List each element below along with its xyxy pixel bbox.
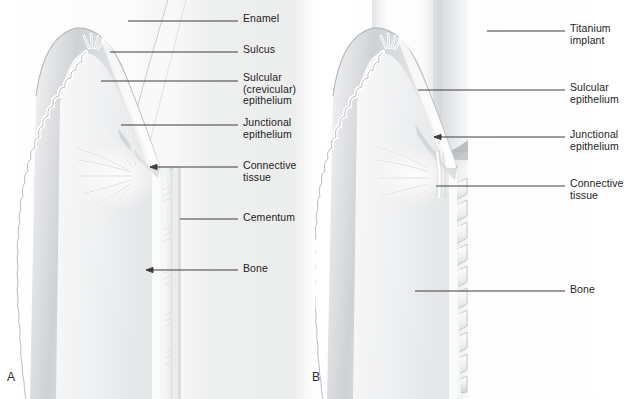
label-bone: Bone [570, 284, 595, 296]
panel-b-titanium-implant: Titanium implantSulcular epitheliumJunct… [315, 0, 630, 399]
label-sulcular-epithelium: Sulcular epithelium [570, 82, 619, 105]
label-connective-tissue: Connective tissue [570, 178, 624, 201]
label-enamel: Enamel [243, 13, 279, 25]
cementum-layer [171, 168, 180, 399]
figure-root: EnamelSulcusSulcular (crevicular) epithe… [0, 0, 630, 399]
label-titanium-implant: Titanium implant [570, 23, 630, 46]
panel-letter-b: B [312, 370, 320, 384]
label-bone: Bone [243, 263, 268, 275]
label-sulcus: Sulcus [243, 44, 275, 56]
label-junctional-epithelium: Junctional epithelium [243, 117, 292, 140]
label-connective-tissue: Connective tissue [243, 160, 297, 183]
panel-letter-a: A [7, 370, 15, 384]
label-cementum: Cementum [243, 212, 295, 224]
label-sulcular-epithelium: Sulcular (crevicular) epithelium [243, 72, 296, 107]
panel-a-natural-tooth: EnamelSulcusSulcular (crevicular) epithe… [0, 0, 315, 399]
panel-a-illustration [0, 0, 315, 399]
label-junctional-epithelium: Junctional epithelium [570, 129, 619, 152]
